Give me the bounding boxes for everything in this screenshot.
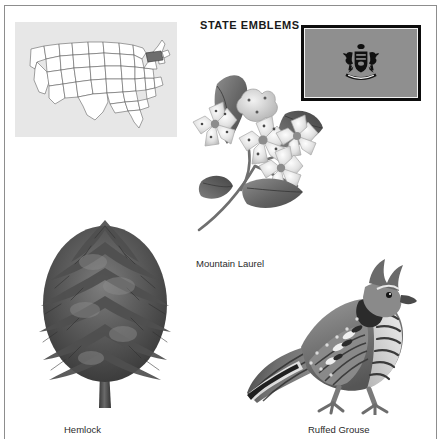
page-title: STATE EMBLEMS [200,19,300,31]
highlighted-state-pennsylvania [146,51,163,62]
grouse-eye [386,292,392,298]
caption-hemlock: Hemlock [64,424,101,435]
united-states-locator-map [15,22,177,137]
ruffed-grouse-illustration [243,243,423,415]
coat-of-arms-icon [338,42,384,84]
grouse-beak [400,295,417,304]
caption-ruffed-grouse: Ruffed Grouse [308,424,370,435]
page-frame-top-rule [4,5,437,6]
mountain-laurel-illustration [185,62,330,237]
page-frame-left-rule [4,5,5,439]
page-frame-right-rule [436,5,437,439]
caption-mountain-laurel: Mountain Laurel [196,258,264,269]
state-emblems-page: STATE EMBLEMS [0,0,443,439]
hemlock-tree-illustration [31,212,181,412]
laurel-leaf [199,176,233,199]
